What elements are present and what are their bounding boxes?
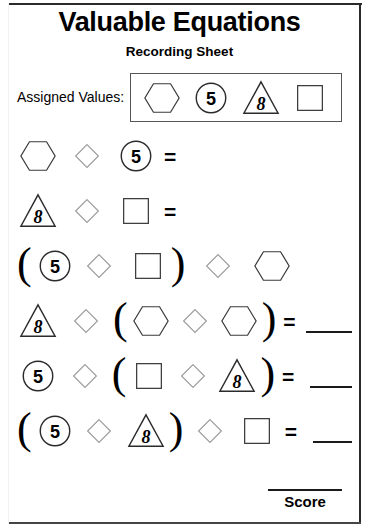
square-icon (238, 412, 276, 450)
hexagon-icon (19, 137, 57, 175)
page-title: Valuable Equations (0, 7, 359, 37)
diamond-icon (191, 412, 229, 450)
circle-icon-value-5: 5 (19, 357, 57, 395)
diamond-icon (174, 357, 212, 395)
page-frame-right-rule (359, 3, 361, 524)
svg-text:5: 5 (131, 147, 141, 167)
assigned-values-label: Assigned Values: (17, 89, 124, 105)
hexagon-icon (220, 302, 258, 340)
equals-sign: = (164, 146, 176, 167)
page-frame-bottom-rule (8, 522, 361, 524)
svg-text:5: 5 (50, 257, 60, 277)
triangle-icon-value-8: 8 (19, 302, 57, 340)
hexagon-icon (253, 247, 291, 285)
diamond-icon (66, 357, 104, 395)
svg-text:8: 8 (256, 94, 265, 114)
circle-icon-value-5: 5 (192, 79, 230, 117)
answer-blank-5[interactable] (310, 386, 352, 388)
equation-row-6: ( 5 8 ) = (16, 408, 352, 454)
diamond-icon (199, 247, 237, 285)
diamond-icon (80, 412, 118, 450)
hexagon-icon (143, 79, 181, 117)
answer-blank-4[interactable] (306, 331, 352, 333)
circle-icon-value-5: 5 (36, 247, 74, 285)
page-subtitle: Recording Sheet (0, 44, 359, 60)
equation-row-5: 5 ( 8 ) = (16, 353, 352, 399)
equals-sign: = (282, 366, 294, 387)
equals-sign: = (285, 421, 297, 442)
page-frame-left-rule (8, 3, 9, 524)
diamond-icon (80, 247, 118, 285)
score-label: Score (268, 493, 342, 510)
equation-row-3: ( 5 ) (16, 243, 352, 289)
square-icon (117, 192, 155, 230)
worksheet-page: Valuable Equations Recording Sheet Assig… (0, 0, 374, 532)
score-area: Score (268, 489, 342, 510)
diamond-icon (67, 302, 105, 340)
page-frame-top-rule (8, 3, 362, 5)
triangle-icon-value-8: 8 (19, 192, 57, 230)
square-icon (130, 357, 168, 395)
assigned-values-box: 5 8 (130, 73, 342, 122)
equals-sign: = (283, 311, 295, 332)
diamond-icon (68, 192, 106, 230)
svg-text:8: 8 (233, 372, 242, 392)
square-icon (291, 79, 329, 117)
equation-row-4: 8 ( ) = (16, 298, 352, 344)
circle-icon-value-5: 5 (36, 412, 74, 450)
square-icon (129, 247, 167, 285)
svg-text:5: 5 (50, 422, 60, 442)
equation-row-1: 5 = (16, 133, 352, 179)
circle-icon-value-5: 5 (117, 137, 155, 175)
svg-text:5: 5 (206, 89, 216, 109)
diamond-icon (68, 137, 106, 175)
score-blank[interactable] (268, 489, 342, 491)
svg-text:8: 8 (33, 207, 42, 227)
svg-text:8: 8 (33, 317, 42, 337)
equals-sign: = (164, 201, 176, 222)
svg-text:8: 8 (141, 427, 150, 447)
hexagon-icon (132, 302, 170, 340)
diamond-icon (176, 302, 214, 340)
answer-blank-6[interactable] (313, 441, 352, 443)
equation-row-2: 8 = (16, 188, 352, 234)
svg-text:5: 5 (33, 367, 43, 387)
triangle-icon-value-8: 8 (127, 412, 165, 450)
triangle-icon-value-8: 8 (242, 79, 280, 117)
triangle-icon-value-8: 8 (218, 357, 256, 395)
